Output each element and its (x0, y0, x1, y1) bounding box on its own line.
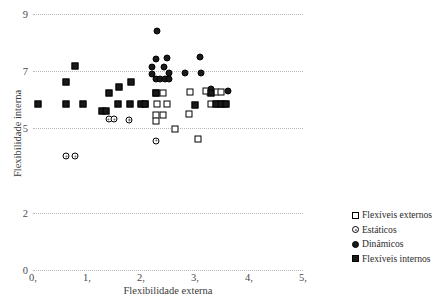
legend-label: Flexíveis internos (362, 254, 430, 264)
x-tick-label: 1, (83, 272, 91, 283)
data-point (63, 101, 70, 108)
data-point (128, 79, 135, 86)
chart-title (60, 0, 360, 4)
gridline-y (33, 128, 303, 129)
x-axis-ticks: 0,1,2,3,4,5, (33, 272, 303, 286)
data-point (111, 116, 118, 123)
y-tick-label: 0 (23, 265, 28, 276)
data-point (153, 55, 160, 62)
y-tick-label: 2 (23, 208, 28, 219)
legend-marker-icon (352, 241, 359, 248)
y-tick-label: 7 (23, 65, 28, 76)
x-tick-label: 3, (191, 272, 199, 283)
chart-legend: Flexíveis externosEstáticosDinâmicosFlex… (352, 209, 444, 267)
data-point (163, 101, 170, 108)
data-point (225, 87, 232, 94)
x-tick-label: 5, (299, 272, 307, 283)
data-point (116, 84, 123, 91)
data-point (217, 89, 224, 96)
data-point (186, 89, 193, 96)
data-point (105, 90, 112, 97)
data-point (192, 102, 199, 109)
legend-item[interactable]: Dinâmicos (352, 238, 444, 250)
x-tick-label: 4, (245, 272, 253, 283)
data-point (127, 101, 134, 108)
x-tick-label: 2, (137, 272, 145, 283)
data-point (197, 54, 204, 61)
gridline-y (33, 270, 303, 271)
legend-label: Flexíveis externos (362, 210, 432, 220)
y-tick-label: 9 (23, 9, 28, 20)
data-point (153, 90, 160, 97)
data-point (115, 101, 122, 108)
gridline-y (33, 213, 303, 214)
data-point (166, 70, 173, 77)
data-point (185, 111, 192, 118)
data-point (172, 126, 179, 133)
data-point (63, 153, 70, 160)
legend-item[interactable]: Estáticos (352, 224, 444, 236)
legend-label: Dinâmicos (362, 239, 404, 249)
y-axis-ticks: 97520 (0, 14, 28, 270)
data-point (72, 62, 79, 69)
data-point (154, 101, 161, 108)
data-point (126, 116, 133, 123)
legend-marker-icon (352, 226, 359, 233)
data-point (194, 136, 201, 143)
data-point (159, 111, 166, 118)
data-point (103, 108, 110, 115)
scatter-chart: Flexibilidade interna 97520 0,1,2,3,4,5,… (0, 0, 445, 298)
data-point (159, 90, 166, 97)
legend-marker-icon (352, 212, 359, 219)
y-tick-label: 5 (23, 122, 28, 133)
legend-label: Estáticos (362, 225, 397, 235)
data-point (163, 55, 170, 62)
data-point (63, 79, 70, 86)
gridline-y (33, 14, 303, 15)
x-tick-label: 0, (29, 272, 37, 283)
plot-area (33, 14, 303, 270)
data-point (154, 28, 161, 35)
data-point (208, 90, 215, 97)
data-point (142, 101, 149, 108)
legend-item[interactable]: Flexíveis externos (352, 209, 444, 221)
x-axis-title: Flexibilidade externa (33, 285, 303, 296)
data-point (79, 101, 86, 108)
data-point (198, 70, 205, 77)
legend-marker-icon (352, 255, 359, 262)
legend-item[interactable]: Flexíveis internos (352, 253, 444, 265)
data-point (153, 137, 160, 144)
data-point (182, 70, 189, 77)
data-point (72, 153, 79, 160)
data-point (148, 63, 155, 70)
data-point (35, 101, 42, 108)
data-point (223, 101, 230, 108)
